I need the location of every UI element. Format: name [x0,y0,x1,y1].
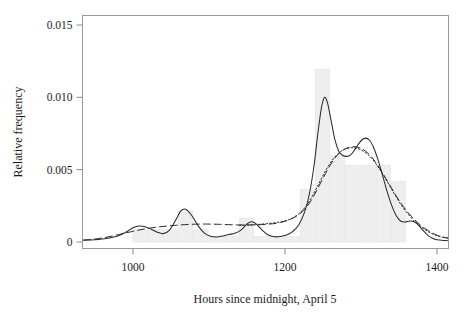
histogram-bar [179,211,193,242]
figure-background [0,0,473,316]
histogram-bar [391,181,405,242]
histogram-bar [361,165,375,242]
x-tick-label: 1400 [426,261,449,273]
histogram-bar [331,156,345,242]
histogram-bar [194,230,208,242]
y-tick-label: 0.005 [47,164,73,176]
histogram-bar [300,189,314,242]
chart-canvas: 100012001400 00.0050.0100.015 Hours sinc… [0,0,473,316]
y-tick-label: 0.010 [47,91,73,103]
y-tick-label: 0 [67,236,73,248]
y-tick-label: 0.015 [47,19,73,31]
histogram-bar [255,237,269,243]
histogram-density-figure: 100012001400 00.0050.0100.015 Hours sinc… [0,0,473,316]
x-tick-label: 1000 [122,261,145,273]
histogram-bar [346,165,360,242]
histogram-bar [224,237,238,243]
x-axis-title: Hours since midnight, April 5 [194,292,337,306]
histogram-bar [133,230,147,242]
y-axis-title: Relative frequency [11,87,25,178]
histogram-bar [163,230,177,242]
x-tick-label: 1200 [274,261,297,273]
histogram-bar [285,237,299,243]
histogram-bar [315,69,329,242]
